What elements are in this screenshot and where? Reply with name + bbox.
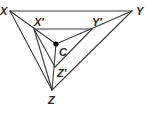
- label-z: Z: [47, 94, 56, 106]
- label-x: X: [0, 5, 8, 17]
- diagram-canvas: X Y Z X′ Y′ Z′ C: [0, 0, 149, 115]
- triangle-diagram: X Y Z X′ Y′ Z′ C: [0, 0, 149, 115]
- label-c: C: [59, 46, 68, 58]
- label-y-prime: Y′: [92, 16, 103, 28]
- label-x-prime: X′: [33, 16, 45, 28]
- segment-x-c: [10, 11, 56, 44]
- segment-xp-z: [34, 29, 52, 90]
- center-point-c: [53, 41, 58, 46]
- label-y: Y: [136, 5, 145, 17]
- label-z-prime: Z′: [56, 67, 68, 79]
